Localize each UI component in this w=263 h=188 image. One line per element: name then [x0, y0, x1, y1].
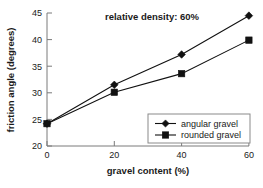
- y-tick-label-30: 30: [32, 88, 42, 98]
- y-tick-label-25: 25: [32, 115, 42, 125]
- legend-label-rounded-gravel: rounded gravel: [181, 130, 241, 140]
- data-point-rounded-40: [178, 70, 184, 76]
- x-tick-label-60: 60: [244, 150, 254, 160]
- legend-label-angular-gravel: angular gravel: [181, 119, 238, 129]
- y-tick-label-35: 35: [32, 62, 42, 72]
- y-tick-label-20: 20: [32, 141, 42, 151]
- friction-angle-line-chart: 20 25 30 35 40 45 0 20 40 60 gravel cont…: [0, 0, 263, 188]
- x-tick-label-0: 0: [44, 150, 49, 160]
- data-point-rounded-60: [246, 37, 252, 43]
- data-point-rounded-20: [111, 89, 117, 95]
- y-axis-title: friction angle (degrees): [5, 27, 16, 132]
- x-tick-label-40: 40: [177, 150, 187, 160]
- legend-marker-square-icon: [162, 132, 168, 138]
- data-point-rounded-0: [44, 120, 50, 126]
- x-axis-title: gravel content (%): [107, 165, 189, 176]
- x-tick-label-20: 20: [109, 150, 119, 160]
- chart-container: 20 25 30 35 40 45 0 20 40 60 gravel cont…: [0, 0, 263, 188]
- y-tick-label-40: 40: [32, 35, 42, 45]
- chart-title: relative density: 60%: [105, 11, 200, 22]
- chart-legend: angular gravel rounded gravel: [148, 114, 250, 143]
- y-tick-label-45: 45: [32, 8, 42, 18]
